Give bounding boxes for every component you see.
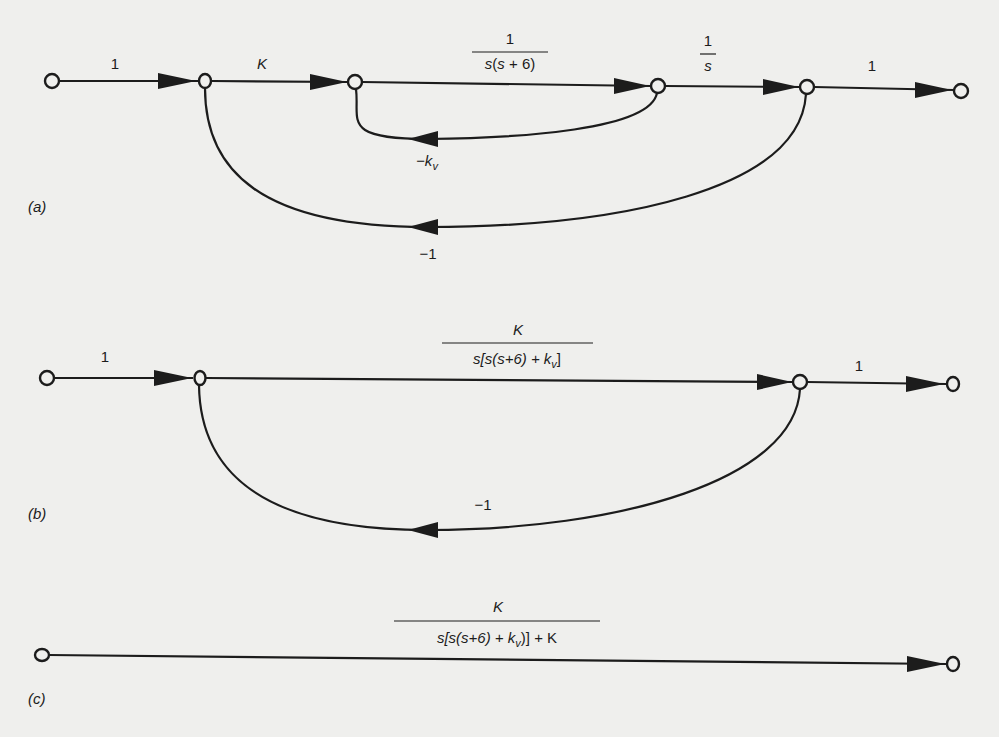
node-a-1 [199,74,211,88]
arrow-icon [906,376,944,392]
gain-b-2-3: 1 [855,357,863,374]
panel-label-b: (b) [28,505,46,522]
gain-b-feedback-1: −1 [474,496,491,513]
edge-c-0-1 [49,655,946,664]
gain-a-4-5: 1 [868,57,876,74]
gain-a-3-4-den: s [704,57,712,74]
gain-a-1-2: K [257,55,268,72]
node-b-1 [195,371,206,385]
gain-a-2-3-den: s(s + 6) [485,55,535,72]
node-c-1 [947,657,959,671]
node-a-3 [651,79,665,93]
panel-a: 1 K 1 s(s + 6) 1 s 1 −kv −1 (a) [28,30,968,262]
node-a-0 [45,74,59,88]
signal-flow-graph-figure: 1 K 1 s(s + 6) 1 s 1 −kv −1 (a) 1 K [0,0,999,737]
arrow-icon [907,656,945,672]
gain-c-0-1-den: s[s(s+6) + kv)] + K [437,629,557,649]
edge-a-2-3 [362,82,651,86]
arrow-icon [915,82,952,98]
gain-b-1-2-num: K [513,321,524,338]
edge-a-feedback-1 [205,88,806,227]
panel-label-c: (c) [28,690,46,707]
node-b-2 [793,375,807,389]
arrow-icon [408,522,438,538]
gain-c-0-1-num: K [493,598,504,615]
panel-c: K s[s(s+6) + kv)] + K (c) [28,598,959,707]
edge-b-feedback-1 [199,385,800,530]
gain-b-1-2-den: s[s(s+6) + kv] [473,350,561,370]
edge-b-1-2 [206,378,793,382]
node-b-3 [947,377,959,391]
arrow-icon [408,131,438,147]
arrow-icon [408,219,438,235]
node-c-0 [35,649,49,661]
gain-a-2-3-num: 1 [506,30,514,47]
gain-a-0-1: 1 [111,55,119,72]
node-a-4 [800,80,814,94]
gain-a-3-4-num: 1 [704,32,712,49]
gain-a-feedback-1: −1 [419,245,436,262]
panel-label-a: (a) [28,198,46,215]
panel-b: 1 K s[s(s+6) + kv] 1 −1 (b) [28,321,959,538]
arrow-icon [763,79,799,95]
arrow-icon [158,73,196,89]
arrow-icon [310,74,347,90]
arrow-icon [154,370,192,386]
arrow-icon [757,374,792,390]
node-a-2 [348,75,362,89]
gain-a-feedback-kv: −kv [416,152,439,172]
node-b-0 [40,371,54,385]
arrow-icon [614,78,650,94]
node-a-5 [954,84,968,98]
edge-a-feedback-kv [356,89,657,139]
gain-b-0-1: 1 [101,348,109,365]
